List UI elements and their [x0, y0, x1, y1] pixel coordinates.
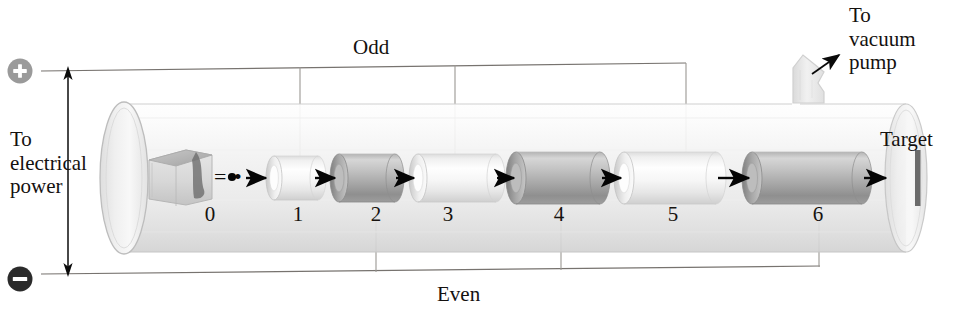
linac-diagram-svg [0, 0, 973, 312]
ion-source-block [149, 150, 212, 206]
tube-number-2: 2 [365, 202, 387, 227]
odd-group-label: Odd [353, 36, 389, 60]
tube-number-5: 5 [662, 202, 684, 227]
source-equals-dot-label: = • [214, 164, 243, 190]
drift-tube-5 [614, 152, 726, 204]
negative-terminal-icon [8, 267, 33, 292]
even-group-label: Even [437, 283, 480, 307]
drift-tube-3 [409, 154, 505, 202]
target-bar [915, 150, 921, 206]
target-label: Target [880, 128, 933, 152]
tube-number-4: 4 [548, 202, 570, 227]
drift-tube-6 [742, 152, 872, 204]
drift-tube-2 [330, 154, 404, 202]
drift-tube-4 [506, 152, 610, 204]
to-electrical-power-label: To electrical power [10, 128, 87, 199]
vacuum-pump-neck [793, 55, 824, 103]
to-vacuum-pump-label: To vacuum pump [849, 4, 915, 75]
tube-number-1: 1 [287, 202, 309, 227]
tube-number-3: 3 [437, 202, 459, 227]
linac-figure: To electrical power To vacuum pump Odd E… [0, 0, 973, 312]
tube-number-6: 6 [807, 202, 829, 227]
positive-terminal-icon [8, 59, 33, 84]
tube-number-0: 0 [199, 202, 221, 227]
vacuum-pump-leader [812, 55, 839, 74]
